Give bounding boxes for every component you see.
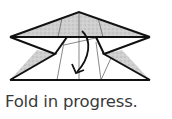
crease-lines bbox=[57, 37, 111, 80]
top-flap bbox=[10, 12, 150, 37]
figure-caption: Fold in progress. bbox=[5, 92, 138, 111]
origami-fold-diagram bbox=[0, 0, 172, 88]
